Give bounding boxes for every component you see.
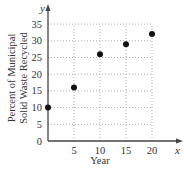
y-tick-label: 10: [32, 102, 43, 113]
data-point: [123, 41, 129, 47]
x-axis-variable: x: [174, 144, 180, 156]
y-tick-label: 25: [32, 52, 43, 63]
y-tick-label: 0: [37, 136, 42, 147]
y-axis-variable: y: [39, 2, 45, 14]
y-tick-labels: 05101520253035: [32, 19, 43, 147]
x-tick-label: 15: [121, 145, 132, 156]
y-axis-label-line-1: Percent of Municipal: [6, 34, 17, 123]
data-point: [45, 105, 51, 111]
y-axis-label: Percent of Municipal Solid Waste Recycle…: [6, 31, 29, 123]
x-tick-label: 20: [147, 145, 158, 156]
data-point: [97, 51, 103, 57]
grid-lines: [48, 24, 152, 141]
data-point: [71, 85, 77, 91]
y-tick-label: 30: [32, 35, 43, 46]
y-tick-label: 5: [37, 119, 42, 130]
y-tick-label: 20: [32, 69, 43, 80]
axes: y x: [39, 2, 183, 156]
x-axis-arrow-icon: [176, 139, 183, 144]
scatter-chart: y x 05101520253035 5101520 Year Percent …: [0, 0, 184, 169]
x-tick-label: 5: [71, 145, 76, 156]
y-axis-label-line-2: Solid Waste Recycled: [18, 31, 29, 123]
x-axis-label: Year: [90, 155, 110, 166]
y-tick-label: 15: [32, 85, 43, 96]
x-tick-labels: 5101520: [71, 145, 157, 156]
data-point: [149, 31, 155, 37]
y-axis-arrow-icon: [46, 4, 51, 11]
y-tick-label: 35: [32, 19, 43, 30]
